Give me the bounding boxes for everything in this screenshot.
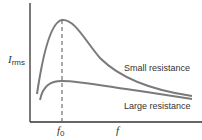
large-resistance-label: Large resistance xyxy=(124,101,191,111)
small-resistance-label: Small resistance xyxy=(124,63,190,73)
y-axis-label: Irms xyxy=(7,53,25,67)
resonance-chart: Irms Small resistance Large resistance f… xyxy=(0,0,202,140)
small-resistance-curve xyxy=(37,20,192,96)
f0-tick-label: f0 xyxy=(57,124,65,138)
x-axis-label: f xyxy=(116,124,121,136)
large-resistance-curve xyxy=(40,81,192,100)
